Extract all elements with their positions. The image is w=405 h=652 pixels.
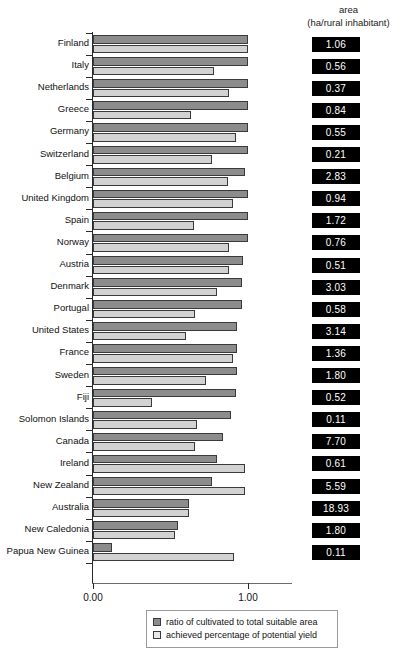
bar-achieved-yield xyxy=(93,420,197,429)
category-label: Australia xyxy=(0,501,89,512)
chart-row: Australia18.93 xyxy=(0,498,405,520)
category-label: Austria xyxy=(0,258,89,269)
bar-achieved-yield xyxy=(93,67,214,76)
category-label: Papua New Guinea xyxy=(0,545,89,556)
y-axis-tick xyxy=(86,386,92,387)
bar-achieved-yield xyxy=(93,398,152,407)
chart-row: Finland1.06 xyxy=(0,34,405,56)
bar-cultivated-ratio xyxy=(93,499,189,508)
area-value-badge: 1.72 xyxy=(312,213,360,228)
bar-achieved-yield xyxy=(93,531,175,540)
bar-achieved-yield xyxy=(93,199,233,208)
value-column-header-line1: area xyxy=(292,3,405,16)
bar-achieved-yield xyxy=(93,89,229,98)
area-value-badge: 2.83 xyxy=(312,169,360,184)
x-axis-line xyxy=(92,583,292,584)
bar-achieved-yield xyxy=(93,332,186,341)
category-label: Fiji xyxy=(0,391,89,402)
bar-achieved-yield xyxy=(93,221,194,230)
category-label: United States xyxy=(0,324,89,335)
y-axis-tick xyxy=(86,408,92,409)
y-axis-tick xyxy=(86,33,92,34)
y-axis-tick xyxy=(86,320,92,321)
y-axis-tick xyxy=(86,121,92,122)
area-value-badge: 0.11 xyxy=(312,412,360,427)
bar-cultivated-ratio xyxy=(93,477,212,486)
y-axis-tick xyxy=(86,452,92,453)
chart-row: Sweden1.80 xyxy=(0,366,405,388)
y-axis-tick xyxy=(86,364,92,365)
bar-achieved-yield xyxy=(93,288,217,297)
bar-cultivated-ratio xyxy=(93,322,237,331)
bar-cultivated-ratio xyxy=(93,300,242,309)
bar-cultivated-ratio xyxy=(93,344,237,353)
x-axis-tick-label: 1.00 xyxy=(238,592,257,603)
chart-row: Germany0.55 xyxy=(0,122,405,144)
bar-cultivated-ratio xyxy=(93,256,243,265)
category-label: Italy xyxy=(0,59,89,70)
category-label: New Caledonia xyxy=(0,523,89,534)
category-label: United Kingdom xyxy=(0,192,89,203)
y-axis-tick xyxy=(86,187,92,188)
y-axis-tick xyxy=(86,541,92,542)
value-column-header: area (ha/rural inhabitant) xyxy=(292,3,405,29)
category-label: Greece xyxy=(0,103,89,114)
y-axis-tick xyxy=(86,165,92,166)
chart-row: Austria0.51 xyxy=(0,255,405,277)
bar-achieved-yield xyxy=(93,487,245,496)
y-axis-tick xyxy=(86,430,92,431)
chart-row: Denmark3.03 xyxy=(0,277,405,299)
category-label: Finland xyxy=(0,37,89,48)
area-value-badge: 1.80 xyxy=(312,523,360,538)
bar-cultivated-ratio xyxy=(93,146,248,155)
chart-row: France1.36 xyxy=(0,343,405,365)
chart-row: Belgium2.83 xyxy=(0,167,405,189)
bar-achieved-yield xyxy=(93,45,248,54)
chart-root: area (ha/rural inhabitant) Finland1.06It… xyxy=(0,0,405,652)
chart-row: United States3.14 xyxy=(0,321,405,343)
y-axis-tick xyxy=(86,563,92,564)
bar-cultivated-ratio xyxy=(93,455,217,464)
y-axis-tick xyxy=(86,298,92,299)
chart-row: Fiji0.52 xyxy=(0,388,405,410)
bar-achieved-yield xyxy=(93,177,228,186)
area-value-badge: 0.76 xyxy=(312,235,360,250)
chart-row: United Kingdom0.94 xyxy=(0,189,405,211)
category-label: Ireland xyxy=(0,457,89,468)
legend-label-0: ratio of cultivated to total suitable ar… xyxy=(166,616,318,628)
bar-cultivated-ratio xyxy=(93,101,248,110)
y-axis-tick xyxy=(86,519,92,520)
bar-achieved-yield xyxy=(93,155,212,164)
y-axis-tick xyxy=(86,254,92,255)
bar-achieved-yield xyxy=(93,442,195,451)
y-axis-tick xyxy=(86,99,92,100)
chart-row: Ireland0.61 xyxy=(0,454,405,476)
y-axis-tick xyxy=(86,276,92,277)
legend-swatch-dark-icon xyxy=(153,618,161,626)
area-value-badge: 5.59 xyxy=(312,479,360,494)
area-value-badge: 0.51 xyxy=(312,258,360,273)
legend-item-1: achieved percentage of potential yield xyxy=(153,629,331,641)
category-label: Netherlands xyxy=(0,81,89,92)
area-value-badge: 0.21 xyxy=(312,147,360,162)
bar-cultivated-ratio xyxy=(93,543,112,552)
bar-cultivated-ratio xyxy=(93,79,248,88)
category-label: Sweden xyxy=(0,369,89,380)
y-axis-tick xyxy=(86,55,92,56)
area-value-badge: 0.56 xyxy=(312,59,360,74)
bar-cultivated-ratio xyxy=(93,367,237,376)
x-axis-tick-label: 0.00 xyxy=(83,592,102,603)
y-axis-tick xyxy=(86,475,92,476)
chart-row: Solomon Islands0.11 xyxy=(0,410,405,432)
bar-achieved-yield xyxy=(93,266,229,275)
area-value-badge: 3.03 xyxy=(312,280,360,295)
bar-achieved-yield xyxy=(93,354,233,363)
area-value-badge: 1.36 xyxy=(312,346,360,361)
y-axis-tick xyxy=(86,342,92,343)
chart-row: New Zealand5.59 xyxy=(0,476,405,498)
bar-achieved-yield xyxy=(93,310,195,319)
area-value-badge: 7.70 xyxy=(312,434,360,449)
chart-row: Italy0.56 xyxy=(0,56,405,78)
area-value-badge: 0.55 xyxy=(312,125,360,140)
legend-label-1: achieved percentage of potential yield xyxy=(166,629,317,641)
